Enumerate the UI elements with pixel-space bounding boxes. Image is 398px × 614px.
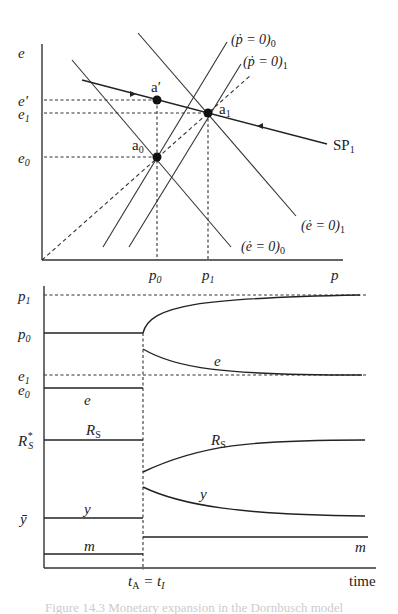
label-sp1: SP1 (333, 137, 355, 155)
label-rs-before: RS (85, 422, 101, 440)
time-axis-label: time (349, 573, 376, 589)
e-axis-label: e (18, 45, 25, 61)
label-pdot0: (ṗ = 0)0 (231, 32, 276, 49)
tick-shock-time: tA = tI (128, 573, 165, 591)
time-paths: p1 p0 e1 e0 R*S ȳ e e RS RS y y m m tA =… (17, 286, 376, 591)
rs-path-after (143, 440, 365, 472)
label-e-before: e (84, 392, 91, 408)
label-y-before: y (82, 501, 91, 517)
label-e-after: e (214, 353, 221, 369)
label-a-prime: a′ (151, 79, 161, 95)
p-path-after (143, 295, 360, 333)
point-a-prime (153, 96, 162, 105)
tick-p1: p1 (201, 267, 215, 285)
label-m-before: m (84, 538, 95, 554)
sp-arrow-right-icon (130, 91, 136, 97)
sp-arrow-left-icon (257, 123, 263, 129)
tick-p1: p1 (17, 288, 31, 306)
tick-p0: p0 (148, 267, 162, 285)
y-path-after (143, 487, 365, 516)
label-edot1: (ė = 0)1 (301, 218, 345, 235)
tick-ybar: ȳ (18, 511, 27, 527)
phase-diagram: e e′ e1 e0 a′ a0 a1 SP1 (ṗ = 0)0 (ṗ = 0)… (18, 32, 355, 285)
label-y-after: y (198, 486, 207, 502)
tick-p0: p0 (17, 326, 31, 344)
pdot1-line (129, 64, 241, 247)
label-rs-after: RS (210, 432, 226, 450)
tick-e0: e0 (18, 150, 30, 168)
p-axis-label: p (330, 267, 339, 283)
label-a0: a0 (132, 137, 144, 155)
tick-rs-star: R*S (17, 430, 33, 451)
point-a0 (153, 153, 162, 162)
label-edot0: (ė = 0)0 (241, 239, 285, 256)
pdot0-line (103, 42, 227, 247)
dornbusch-diagram: e e′ e1 e0 a′ a0 a1 SP1 (ṗ = 0)0 (ṗ = 0)… (0, 0, 398, 614)
label-a1: a1 (219, 101, 231, 119)
label-pdot1: (ṗ = 0)1 (243, 54, 288, 71)
label-m-after: m (355, 539, 366, 555)
e-path-after (143, 349, 362, 375)
figure-caption: Figure 14.3 Monetary expansion in the Do… (45, 600, 344, 614)
point-a1 (204, 109, 213, 118)
